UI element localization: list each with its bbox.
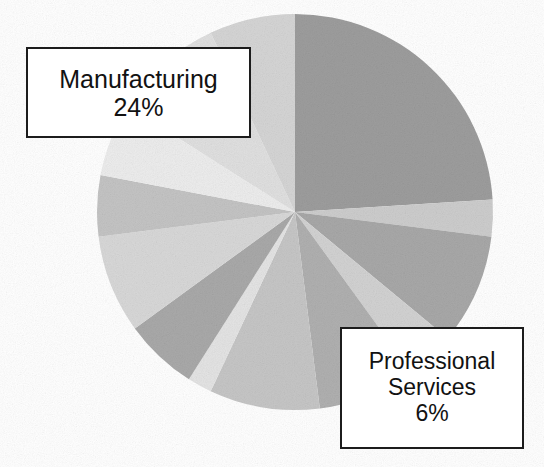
callout-professional-services: Professional Services 6%: [340, 327, 524, 449]
pie-chart-figure: Manufacturing 24% Professional Services …: [0, 0, 544, 467]
callout-manufacturing-value: 24%: [113, 93, 163, 121]
pie-slice: [295, 14, 493, 212]
callout-professional-services-value: 6%: [415, 401, 448, 427]
callout-professional-services-label-line1: Professional: [369, 349, 496, 375]
callout-manufacturing: Manufacturing 24%: [26, 47, 251, 138]
callout-professional-services-label-line2: Services: [388, 375, 476, 401]
callout-manufacturing-label: Manufacturing: [59, 65, 217, 93]
